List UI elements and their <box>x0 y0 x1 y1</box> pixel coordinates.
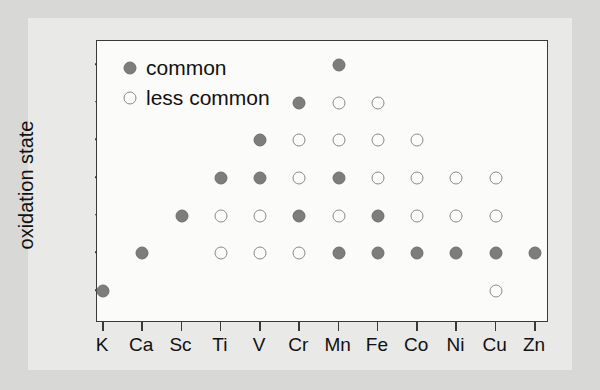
open-circle-icon <box>124 92 137 105</box>
data-point-mn-6 <box>332 96 345 109</box>
data-point-fe-3 <box>371 209 384 222</box>
data-point-cu-2 <box>489 247 502 260</box>
data-point-ti-3 <box>214 209 227 222</box>
x-axis-tick-mark <box>141 322 143 331</box>
x-axis-tick-label-ca: Ca <box>129 334 153 356</box>
data-point-fe-6 <box>371 96 384 109</box>
x-axis-tick-mark <box>181 322 183 331</box>
x-axis-tick-label-cu: Cu <box>483 334 507 356</box>
x-axis-tick-label-zn: Zn <box>523 334 545 356</box>
plot-area: commonless common <box>96 40 548 322</box>
x-axis-tick-label-fe: Fe <box>366 334 388 356</box>
x-axis-tick-label-ti: Ti <box>212 334 227 356</box>
data-point-co-5 <box>411 134 424 147</box>
data-point-fe-5 <box>371 134 384 147</box>
legend-item-common: common <box>123 53 333 83</box>
data-point-co-3 <box>411 209 424 222</box>
legend-swatch-common-icon <box>123 61 137 75</box>
x-axis-tick-label-co: Co <box>404 334 428 356</box>
data-point-ti-4 <box>214 172 227 185</box>
data-point-v-5 <box>254 134 267 147</box>
data-point-cr-5 <box>293 134 306 147</box>
data-point-ni-2 <box>450 247 463 260</box>
x-axis-tick-label-cr: Cr <box>288 334 308 356</box>
x-axis-tick-label-k: K <box>96 334 109 356</box>
data-point-cr-3 <box>293 209 306 222</box>
x-axis-tick-label-sc: Sc <box>169 334 191 356</box>
data-point-v-3 <box>254 209 267 222</box>
data-point-ca-2 <box>136 247 149 260</box>
data-point-ti-2 <box>214 247 227 260</box>
data-point-mn-7 <box>332 59 345 72</box>
x-axis-tick-mark <box>377 322 379 331</box>
legend-label: common <box>146 56 227 80</box>
legend-label: less common <box>146 86 270 110</box>
data-point-co-4 <box>411 172 424 185</box>
data-point-v-4 <box>254 172 267 185</box>
data-point-zn-2 <box>529 247 542 260</box>
x-axis-tick-mark <box>455 322 457 331</box>
x-axis-tick-mark <box>220 322 222 331</box>
data-point-cu-1 <box>489 285 502 298</box>
x-axis-tick-mark <box>416 322 418 331</box>
x-axis-tick-mark <box>338 322 340 331</box>
data-point-cr-2 <box>293 247 306 260</box>
x-axis-ticks: KCaScTiVCrMnFeCoNiCuZn <box>0 322 600 362</box>
data-point-co-2 <box>411 247 424 260</box>
data-point-fe-4 <box>371 172 384 185</box>
x-axis-tick-mark <box>534 322 536 331</box>
legend-swatch-less-common-icon <box>123 91 137 105</box>
filled-circle-icon <box>124 62 137 75</box>
data-point-fe-2 <box>371 247 384 260</box>
x-axis-tick-label-v: V <box>253 334 266 356</box>
data-point-mn-3 <box>332 209 345 222</box>
data-point-mn-2 <box>332 247 345 260</box>
figure-container: oxidation state +1+2+3+4+5+6+7 commonles… <box>0 0 600 390</box>
x-axis-tick-mark <box>298 322 300 331</box>
data-point-cr-4 <box>293 172 306 185</box>
data-point-cu-3 <box>489 209 502 222</box>
x-axis-tick-label-ni: Ni <box>446 334 464 356</box>
data-point-mn-4 <box>332 172 345 185</box>
x-axis-tick-mark <box>102 322 104 331</box>
x-axis-tick-label-mn: Mn <box>324 334 350 356</box>
x-axis-tick-mark <box>495 322 497 331</box>
data-point-k-1 <box>97 285 110 298</box>
x-axis-tick-mark <box>259 322 261 331</box>
data-point-cr-6 <box>293 96 306 109</box>
data-point-ni-3 <box>450 209 463 222</box>
data-point-sc-3 <box>175 209 188 222</box>
data-point-v-2 <box>254 247 267 260</box>
data-point-ni-4 <box>450 172 463 185</box>
data-point-mn-5 <box>332 134 345 147</box>
data-point-cu-4 <box>489 172 502 185</box>
